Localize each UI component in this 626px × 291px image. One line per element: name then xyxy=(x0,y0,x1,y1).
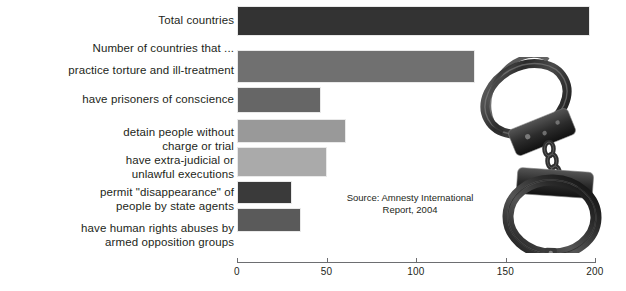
x-axis-tick xyxy=(327,258,328,263)
x-axis-tick xyxy=(416,258,417,263)
x-axis-tick-label: 150 xyxy=(497,266,514,277)
handcuffs-photo xyxy=(470,57,620,253)
x-axis-tick-label: 100 xyxy=(407,266,424,277)
x-axis-tick xyxy=(506,258,507,263)
bar-armed-opposition-abuses xyxy=(237,208,301,232)
x-axis-tick xyxy=(237,258,238,263)
bar-chart: Number of countries that ... Total count… xyxy=(0,0,626,291)
x-axis-tick-label: 200 xyxy=(586,266,603,277)
x-axis-tick xyxy=(595,258,596,263)
bar-disappearances xyxy=(237,181,292,204)
source-note: Source: Amnesty International Report, 20… xyxy=(334,192,486,216)
x-axis-tick-label: 0 xyxy=(234,266,240,277)
bar-detention-without-charge xyxy=(237,119,346,143)
x-axis-tick-label: 50 xyxy=(321,266,333,277)
bar-extrajudicial-executions xyxy=(237,147,327,177)
bar-total-countries xyxy=(237,6,590,36)
bar-prisoners-of-conscience xyxy=(237,87,321,113)
bar-torture xyxy=(237,50,475,83)
